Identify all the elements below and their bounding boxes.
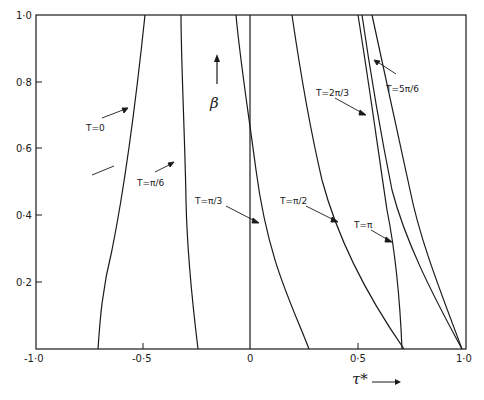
x-axis: -1·0 -0·5 0 0·5 1·0 xyxy=(24,343,472,364)
y-tick-label: 1·0 xyxy=(16,10,32,21)
y-axis-title: β xyxy=(209,54,220,112)
y-tick-label: 0·8 xyxy=(16,77,32,88)
label-t0: T=0 xyxy=(85,123,105,133)
y-axis: 1·0 0·8 0·6 0·4 0·2 xyxy=(16,10,42,288)
svg-text:τ*: τ* xyxy=(352,370,368,388)
label-tpi3: T=π/3 xyxy=(194,196,222,206)
x-tick-label: 1·0 xyxy=(456,353,472,364)
chart: 1·0 0·8 0·6 0·4 0·2 -1·0 -0·5 0 0·5 1·0 … xyxy=(0,0,484,400)
y-tick-label: 0·6 xyxy=(16,143,32,154)
curve-tpi6 xyxy=(181,15,198,349)
label-tpi: T=π xyxy=(353,220,373,230)
plot-frame xyxy=(36,15,466,349)
arrow-right-icon xyxy=(395,379,401,385)
curve-tpi2 xyxy=(292,15,404,349)
x-axis-title: τ* xyxy=(352,370,401,388)
y-tick-label: 0·2 xyxy=(16,277,32,288)
curve-tpi3 xyxy=(236,15,309,349)
label-tpi2: T=π/2 xyxy=(279,196,307,206)
label-t5pi6: T=5π/6 xyxy=(385,84,419,94)
x-tick-label: -1·0 xyxy=(24,353,44,364)
curve-tpi xyxy=(358,15,402,349)
x-tick-label: -0·5 xyxy=(132,353,152,364)
curve-t5pi6 xyxy=(372,15,462,349)
svg-text:β: β xyxy=(209,94,219,112)
arrow-up-icon xyxy=(214,54,220,62)
label-t2pi3: T=2π/3 xyxy=(315,88,349,98)
label-tpi6: T=π/6 xyxy=(136,178,164,188)
x-tick-label: 0·5 xyxy=(350,353,366,364)
x-tick-label: 0 xyxy=(247,353,253,364)
y-tick-label: 0·4 xyxy=(16,210,32,221)
